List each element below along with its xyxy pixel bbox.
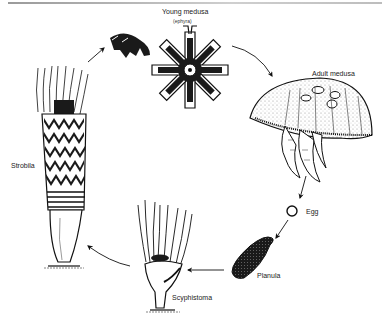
- arrow-ephyra-to-adult: [232, 46, 272, 76]
- label-strobila: Strobila: [11, 162, 35, 169]
- arrow-strobila-to-ephyra: [88, 48, 104, 62]
- adult-medusa-illustration: [250, 78, 372, 182]
- label-scyphistoma: Scyphistoma: [172, 294, 212, 301]
- strobila-illustration: [37, 66, 89, 268]
- ephyra-side-illustration: [110, 33, 150, 58]
- arrow-adult-to-egg: [300, 176, 306, 198]
- label-egg: Egg: [306, 208, 318, 215]
- ephyra-star-illustration: [152, 26, 228, 108]
- arrow-scyphistoma-to-strobila: [88, 246, 130, 266]
- label-planula: Planula: [257, 272, 280, 279]
- label-young-medusa: Young medusa: [162, 8, 208, 15]
- arrow-egg-to-planula: [276, 220, 288, 238]
- life-cycle-diagram: [0, 0, 382, 320]
- label-ephyra: (ephyra): [173, 18, 192, 24]
- egg-illustration: [287, 206, 297, 216]
- label-adult-medusa: Adult medusa: [312, 70, 355, 77]
